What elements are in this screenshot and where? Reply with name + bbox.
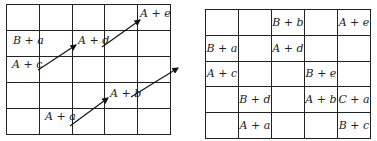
grid-cell: [238, 10, 271, 36]
grid-cell: [206, 113, 239, 139]
grid-cell: B + b: [271, 10, 304, 36]
grid-cell: [206, 10, 239, 36]
grid-cell: B + c: [337, 113, 370, 139]
grid-row: B + dA + bC + a: [206, 87, 371, 113]
grid-cell: A + b: [304, 87, 337, 113]
grid-cell: A + a: [238, 113, 271, 139]
grid-cell: A + d: [271, 35, 304, 61]
arrow-icon: [38, 45, 76, 70]
grid-row: B + aA + d: [206, 35, 371, 61]
grid-row: B + bA + e: [206, 10, 371, 36]
cell-label: A + b: [110, 87, 141, 100]
right-grid: B + bA + eB + aA + dA + cB + eB + dA + b…: [205, 9, 371, 139]
grid-cell: [337, 61, 370, 87]
grid-cell: A + e: [337, 10, 370, 36]
grid-cell: [238, 61, 271, 87]
grid-cell: [304, 113, 337, 139]
grid-cell: [304, 35, 337, 61]
grid-cell: [206, 87, 239, 113]
cell-label: A + e: [140, 7, 171, 20]
grid-cell: A + c: [206, 61, 239, 87]
grid-cell: B + d: [238, 87, 271, 113]
grid-cell: [271, 113, 304, 139]
grid-cell: [271, 87, 304, 113]
grid-cell: B + e: [304, 61, 337, 87]
grid-row: A + cB + e: [206, 61, 371, 87]
grid-row: A + aB + c: [206, 113, 371, 139]
grid-cell: B + a: [206, 35, 239, 61]
grid-cell: [238, 35, 271, 61]
grid-cell: [271, 61, 304, 87]
cell-label: A + a: [45, 110, 76, 123]
grid-cell: [304, 10, 337, 36]
cell-label: A + c: [12, 58, 42, 71]
grid-cell: C + a: [337, 87, 370, 113]
cell-label: A + d: [78, 34, 109, 47]
grid-cell: [337, 35, 370, 61]
cell-label: B + a: [13, 34, 44, 47]
